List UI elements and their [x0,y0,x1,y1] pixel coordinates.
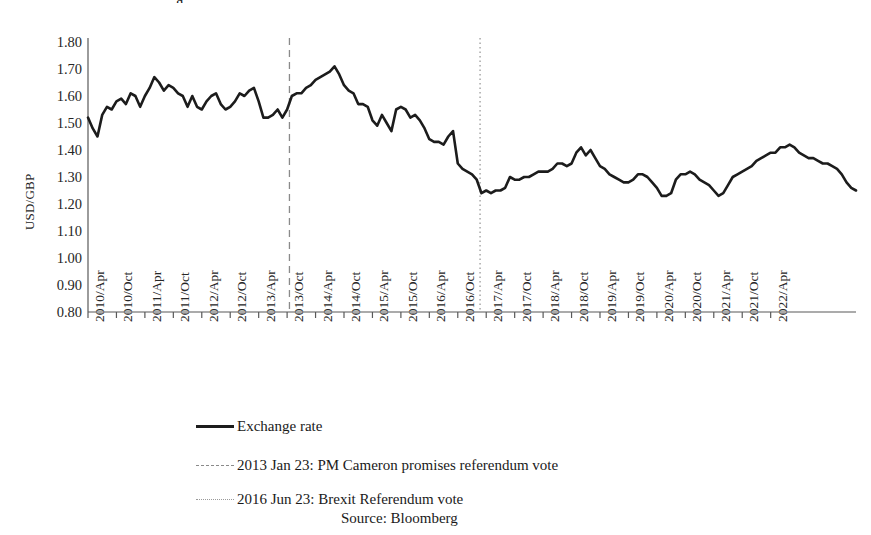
legend-key-dashed-line [196,465,234,466]
legend-item-brexit-event: 2016 Jun 23: Brexit Referendum vote [196,491,463,508]
plot-area [0,0,871,535]
exchange-rate-line [88,66,856,196]
chart-figure: g USD/GBP 1.801.701.601.501.401.301.201.… [0,0,871,535]
legend-label-brexit-event: 2016 Jun 23: Brexit Referendum vote [237,491,463,508]
x-tick-marks [88,312,771,318]
legend-key-solid-line [196,425,234,428]
source-note: Source: Bloomberg [341,510,458,527]
legend-label-exchange-rate: Exchange rate [237,418,322,435]
legend-label-cameron-event: 2013 Jan 23: PM Cameron promises referen… [237,457,558,474]
legend-item-cameron-event: 2013 Jan 23: PM Cameron promises referen… [196,457,558,474]
legend-item-exchange-rate: Exchange rate [196,418,322,435]
legend-key-dotted-line [196,499,234,500]
